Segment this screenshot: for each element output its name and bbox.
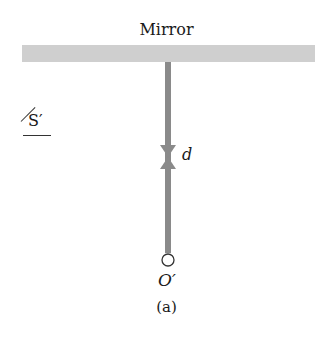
light-clock-figure [0, 0, 333, 347]
origin-label: O′ [158, 270, 176, 290]
arrow-down-icon [160, 145, 176, 157]
arrow-up-icon [160, 157, 176, 169]
source-circle [162, 254, 174, 266]
figure-caption: (a) [0, 298, 333, 316]
distance-label: d [182, 145, 192, 164]
